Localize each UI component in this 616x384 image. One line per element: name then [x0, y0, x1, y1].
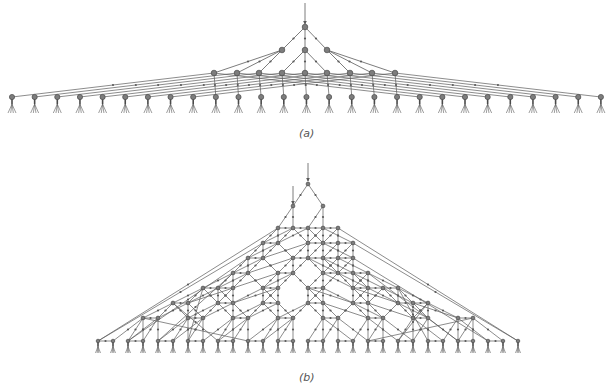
node-circle	[216, 301, 220, 305]
node-circle	[246, 256, 250, 260]
leaf-icon	[276, 339, 281, 353]
edge-arrow-dot	[407, 84, 409, 86]
leaf-icon	[76, 94, 84, 113]
leaf-icon	[381, 339, 386, 353]
node-circle	[349, 94, 354, 99]
edge-arrow-dot	[187, 328, 189, 330]
leaf-icon	[393, 94, 401, 113]
node-circle	[291, 226, 295, 230]
edge-arrow-dot	[314, 279, 316, 281]
edge-arrow-dot	[412, 306, 414, 308]
edge-arrow-dot	[202, 294, 204, 296]
leaf-icon	[552, 94, 560, 113]
edge-arrow-dot	[239, 264, 241, 266]
edge-arrow-dot	[209, 287, 211, 289]
edge-arrow-dot	[337, 264, 339, 266]
edge-arrow-dot	[239, 279, 241, 281]
node-circle	[236, 94, 241, 99]
edge-arrow-dot	[284, 317, 286, 319]
leaf-icon	[189, 94, 197, 113]
node-circle	[336, 256, 340, 260]
edge-arrow-dot	[180, 84, 182, 86]
edge-arrow-dot	[299, 264, 301, 266]
edge-arrow-dot	[194, 321, 196, 323]
edge-arrow-dot	[337, 249, 339, 251]
node-circle	[321, 241, 325, 245]
node-circle	[256, 70, 262, 76]
node-circle	[351, 256, 355, 260]
edge-arrow-dot	[472, 328, 474, 330]
node-circle	[261, 286, 265, 290]
edge-arrow-dot	[449, 328, 451, 330]
edge-arrow-dot	[135, 84, 137, 86]
node-circle	[211, 70, 217, 76]
edge-arrow-dot	[254, 257, 256, 259]
node-circle	[394, 94, 399, 99]
edge-arrow-dot	[232, 309, 234, 311]
edge-arrow-dot	[352, 328, 354, 330]
node-circle	[321, 256, 325, 260]
edge-arrow-dot	[352, 294, 354, 296]
leaf-icon	[246, 339, 251, 353]
edge-arrow-dot	[262, 309, 264, 311]
node-circle	[351, 339, 355, 343]
edge-arrow-dot	[352, 264, 354, 266]
leaf-icon	[486, 339, 491, 353]
edge-arrow-dot	[322, 328, 324, 330]
edge-arrow-dot	[307, 234, 309, 236]
edge-arrow-dot	[382, 328, 384, 330]
edge-arrow-dot	[329, 242, 331, 244]
edge-arrow-dot	[389, 309, 391, 311]
node-circle	[327, 94, 332, 99]
edge-arrow-dot	[344, 264, 346, 266]
edge-arrow-dot	[487, 328, 489, 330]
leaf-icon	[501, 339, 506, 353]
edge-arrow-dot	[412, 313, 414, 315]
edge-arrow-dot	[247, 60, 249, 62]
edge-arrow-dot	[217, 328, 219, 330]
node-circle	[261, 241, 265, 245]
leaf-icon	[186, 339, 191, 353]
leaf-icon	[321, 339, 326, 353]
edge-arrow-dot	[112, 84, 114, 86]
edge-arrow-dot	[292, 309, 294, 311]
caption-a: (a)	[299, 127, 314, 140]
node-circle	[234, 70, 240, 76]
edge-arrow-dot	[329, 279, 331, 281]
node-circle	[392, 70, 398, 76]
edge-arrow-dot	[217, 279, 219, 281]
edge-arrow-dot	[474, 84, 476, 86]
leaf-icon	[257, 94, 265, 113]
edge-arrow-dot	[359, 294, 361, 296]
edge-arrow-dot	[164, 340, 166, 342]
edge-arrow-dot	[127, 328, 129, 330]
node-circle	[321, 286, 325, 290]
edge-arrow-dot	[361, 84, 363, 86]
node-circle	[276, 316, 280, 320]
leaf-icon	[8, 94, 16, 113]
node-circle	[279, 70, 285, 76]
edge-arrow-dot	[329, 249, 331, 251]
edge-arrow-dot	[284, 328, 286, 330]
edge-arrow-dot	[434, 291, 436, 293]
node-circle	[366, 271, 370, 275]
leaf-icon	[167, 94, 175, 113]
node-circle	[306, 286, 310, 290]
edge-arrow-dot	[164, 309, 166, 311]
edge-arrow-dot	[284, 227, 286, 229]
edge-arrow-dot	[316, 84, 318, 86]
edge-arrow-dot	[327, 84, 329, 86]
node-circle	[321, 301, 325, 305]
edge-arrow-dot	[374, 340, 376, 342]
edge-arrow-dot	[282, 84, 284, 86]
leaf-icon	[261, 339, 266, 353]
edge-arrow-dot	[269, 234, 271, 236]
edge-arrow-dot	[329, 234, 331, 236]
edge-arrow-dot	[367, 279, 369, 281]
node-circle	[321, 271, 325, 275]
node-circle	[261, 256, 265, 260]
node-circle	[216, 339, 220, 343]
edge-arrow-dot	[284, 279, 286, 281]
node-circle	[77, 94, 82, 99]
edge-arrow-dot	[419, 298, 421, 300]
